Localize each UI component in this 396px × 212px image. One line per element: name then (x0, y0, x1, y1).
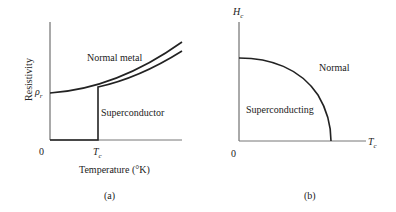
a-normal-metal-curve (50, 42, 182, 93)
b-ylabel: Hc (233, 6, 243, 20)
a-rho-tick: ρr (35, 86, 43, 100)
a-tc-tick: Tc (93, 146, 102, 160)
figure-canvas (0, 0, 396, 212)
a-superconductor-curve (50, 51, 182, 140)
b-normal-label: Normal (319, 62, 350, 73)
b-origin: 0 (231, 148, 236, 159)
b-xlabel: Tc (368, 136, 377, 150)
a-super-label: Superconductor (101, 107, 164, 118)
a-normal-label: Normal metal (87, 52, 142, 63)
b-super-label: Superconducting (246, 104, 314, 115)
a-xlabel: Temperature (°K) (79, 164, 150, 175)
a-origin: 0 (39, 146, 44, 157)
b-caption: (b) (304, 190, 316, 201)
a-ylabel: Resistivity (23, 50, 34, 110)
a-caption: (a) (104, 190, 115, 201)
b-critical-field-curve (239, 58, 331, 141)
